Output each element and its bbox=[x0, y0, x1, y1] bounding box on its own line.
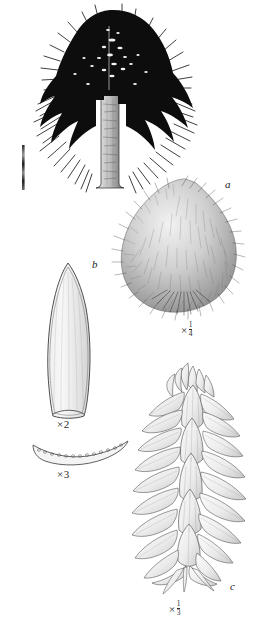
figure-label-c: c bbox=[230, 580, 235, 592]
scale-bar bbox=[22, 145, 25, 190]
scale-value: 3 bbox=[64, 468, 70, 480]
scale-fraction-third: 13 bbox=[177, 600, 181, 616]
scale-fraction-quarter: 14 bbox=[189, 321, 193, 337]
scale-multiplier-sign: × bbox=[181, 324, 188, 336]
scale-caption-shoot: ×13 bbox=[169, 600, 180, 616]
scale-caption-leaf: ×2 bbox=[57, 418, 69, 430]
scale-caption-cone: ×14 bbox=[181, 321, 192, 337]
botanical-plate bbox=[0, 0, 261, 625]
figure-label-b: b bbox=[92, 258, 98, 270]
scale-multiplier-sign: × bbox=[57, 418, 64, 430]
scale-caption-section: ×3 bbox=[57, 468, 69, 480]
scale-multiplier-sign: × bbox=[169, 603, 176, 615]
scale-multiplier-sign: × bbox=[57, 468, 64, 480]
scale-value: 2 bbox=[64, 418, 70, 430]
figure-label-a: a bbox=[225, 178, 231, 190]
